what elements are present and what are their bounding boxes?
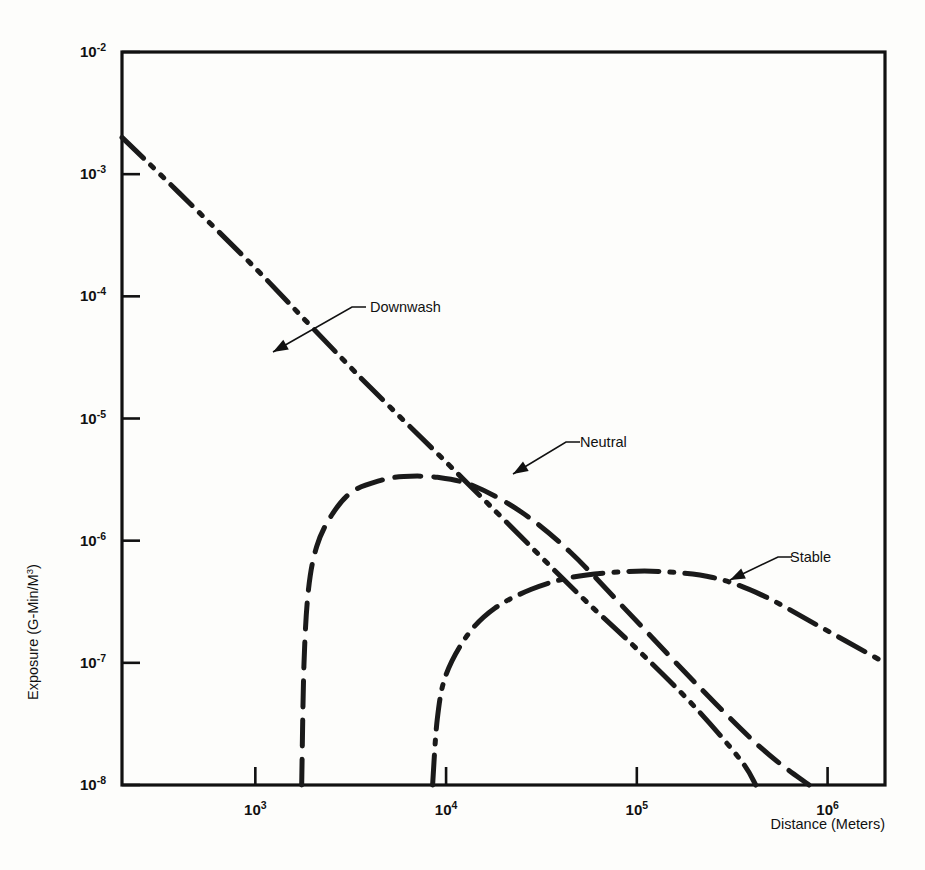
- y-axis-title: Exposure (G-Min/M3): [24, 564, 41, 700]
- annotation-label-downwash: Downwash: [370, 299, 441, 315]
- chart-background: [0, 0, 925, 870]
- chart-figure: 10-210-310-410-510-610-710-8 10310410510…: [0, 0, 925, 870]
- annotation-label-neutral: Neutral: [580, 434, 627, 450]
- annotation-label-stable: Stable: [790, 549, 831, 565]
- x-axis-title: Distance (Meters): [771, 816, 885, 832]
- exposure-vs-distance-chart: 10-210-310-410-510-610-710-8 10310410510…: [0, 0, 925, 870]
